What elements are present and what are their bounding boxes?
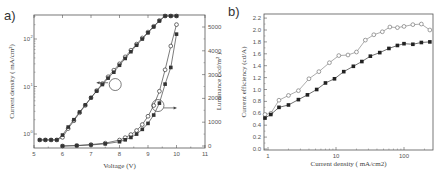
data-marker [118, 140, 122, 144]
data-marker [352, 64, 356, 68]
data-marker [287, 94, 291, 98]
data-marker [103, 142, 107, 146]
data-marker [419, 22, 423, 26]
data-marker [163, 14, 167, 18]
data-marker [169, 44, 173, 48]
data-marker [396, 26, 400, 30]
data-marker [402, 42, 406, 46]
y-right-tick-label: 5000 [208, 24, 222, 30]
data-marker [169, 66, 173, 70]
data-marker [158, 89, 162, 93]
data-marker [411, 23, 415, 27]
data-marker [152, 113, 156, 117]
data-marker [287, 103, 291, 107]
chart-b-plot: 0.00.20.40.60.81.01.21.41.61.82.02.21101… [222, 0, 444, 174]
y-tick-label: 1.8 [253, 39, 262, 45]
data-marker [78, 110, 82, 114]
data-marker [38, 138, 42, 142]
x-tick-label: 7 [89, 151, 93, 157]
data-marker [55, 138, 59, 142]
y-axis-left-title: Current density ( mA/cm²) [8, 44, 16, 119]
data-marker [72, 118, 76, 122]
svg-text:0: 0 [31, 129, 34, 134]
data-marker [411, 42, 415, 46]
data-marker [402, 25, 406, 29]
plot-frame [34, 15, 205, 148]
x-tick-label: 10 [333, 153, 340, 159]
y-tick-label: 0.0 [253, 146, 262, 152]
data-marker [66, 125, 70, 129]
data-marker [315, 88, 319, 92]
data-marker [428, 28, 432, 32]
data-marker [44, 138, 48, 142]
y-right-tick-label: 1000 [208, 119, 222, 125]
data-marker [355, 50, 359, 54]
x-tick-label: 11 [202, 151, 209, 157]
data-marker [333, 77, 337, 81]
data-marker [158, 101, 162, 105]
data-marker [307, 77, 311, 81]
data-marker [378, 51, 382, 55]
data-marker [360, 60, 364, 64]
data-marker [363, 38, 367, 42]
x-tick-label: 8 [118, 151, 122, 157]
data-series [38, 14, 178, 142]
plot-frame [264, 14, 433, 150]
data-marker [263, 116, 267, 120]
y-tick-label: 2.0 [253, 27, 262, 33]
data-marker [89, 143, 93, 147]
data-marker [89, 96, 93, 100]
y-tick-label: 0.4 [253, 122, 262, 128]
x-tick-label: 9 [146, 151, 150, 157]
data-marker [277, 98, 281, 102]
data-marker [141, 37, 145, 41]
x-tick-label: 6 [61, 151, 65, 157]
y-tick-label: 1.6 [253, 51, 262, 57]
data-marker [428, 40, 432, 44]
data-marker [61, 144, 65, 148]
data-marker [129, 50, 133, 54]
y-tick-label: 1.0 [253, 87, 262, 93]
y-axis-title: Current efficiency (cd/A) [240, 46, 248, 118]
data-marker [387, 47, 391, 51]
data-marker [297, 98, 301, 102]
data-marker [118, 63, 122, 67]
data-marker [141, 128, 145, 132]
data-marker [269, 113, 273, 117]
y-axis-right-title: Luminance ( cd/m² ) [215, 52, 222, 110]
data-marker [324, 81, 328, 85]
data-marker [49, 138, 53, 142]
svg-text:2: 2 [31, 34, 34, 39]
data-marker [75, 144, 79, 148]
y-tick-label: 1.4 [253, 63, 262, 69]
data-marker [175, 23, 179, 27]
data-marker [388, 25, 392, 29]
svg-text:1: 1 [31, 82, 34, 87]
y-tick-label: 0.8 [253, 98, 262, 104]
data-marker [146, 31, 150, 35]
data-marker [158, 19, 162, 23]
chart-a-plot: 567891011100101102010002000300040005000V… [0, 0, 222, 174]
chart-panel-a: a) 5678910111001011020100020003000400050… [0, 0, 222, 174]
data-marker [317, 70, 321, 74]
y-tick-label: 0.2 [253, 134, 262, 140]
data-marker [84, 103, 88, 107]
data-marker [328, 61, 332, 65]
data-marker [129, 136, 133, 140]
y-tick-label: 0.6 [253, 110, 262, 116]
data-marker [420, 41, 424, 45]
data-marker [146, 122, 150, 126]
data-marker [163, 82, 167, 86]
data-marker [175, 14, 179, 18]
data-marker [163, 68, 167, 72]
data-marker [112, 70, 116, 74]
data-marker [101, 83, 105, 87]
data-marker [95, 89, 99, 93]
x-tick-label: 10 [173, 151, 180, 157]
x-tick-label: 100 [399, 153, 410, 159]
y-tick-label: 1.2 [253, 75, 262, 81]
data-marker [135, 43, 139, 47]
x-axis-title: Current density ( mA/cm2) [310, 160, 387, 168]
data-marker [152, 25, 156, 29]
x-tick-label: 1 [266, 153, 270, 159]
